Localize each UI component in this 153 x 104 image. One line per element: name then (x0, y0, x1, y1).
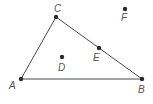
point-d (60, 55, 64, 59)
point-c (54, 15, 58, 19)
label-a: A (8, 80, 16, 91)
point-b (140, 77, 144, 81)
diagram-canvas: ABCDEF (0, 0, 153, 104)
label-b: B (138, 84, 145, 95)
label-e: E (93, 52, 100, 63)
point-labels: ABCDEF (8, 3, 145, 95)
label-d: D (58, 62, 65, 73)
point-a (19, 77, 23, 81)
label-c: C (54, 3, 62, 14)
triangle-diagram: ABCDEF (0, 0, 153, 104)
point-f (123, 7, 127, 11)
point-e (97, 46, 101, 50)
label-f: F (121, 12, 128, 23)
triangle-edges (21, 17, 142, 79)
segment-ca (21, 17, 56, 79)
